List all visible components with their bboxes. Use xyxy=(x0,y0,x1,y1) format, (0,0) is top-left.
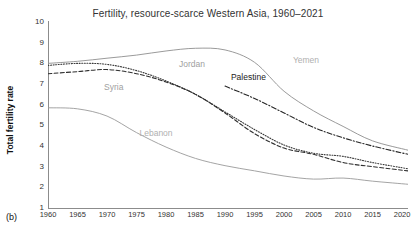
y-axis-ticks: 10987654321 xyxy=(22,21,44,208)
y-axis-title-text: Total fertility rate xyxy=(5,85,15,153)
series-label-syria: Syria xyxy=(104,82,123,92)
y-tick-label: 8 xyxy=(26,58,44,67)
series-label-yemen: Yemen xyxy=(293,55,319,65)
x-tick-label: 1995 xyxy=(246,210,263,219)
y-tick-label: 5 xyxy=(26,120,44,129)
y-tick-label: 2 xyxy=(26,182,44,191)
series-label-palestine: Palestine xyxy=(231,72,266,82)
series-label-jordan: Jordan xyxy=(179,59,205,69)
series-lines xyxy=(48,21,408,207)
y-tick-label: 10 xyxy=(26,17,44,26)
x-axis-line xyxy=(48,208,408,209)
x-tick-label: 2015 xyxy=(364,210,381,219)
series-line-yemen xyxy=(48,48,408,150)
x-tick-label: 1975 xyxy=(128,210,145,219)
x-tick-label: 1960 xyxy=(40,210,57,219)
x-axis-ticks: 1960196519701975198019851990199520002005… xyxy=(48,210,408,226)
chart-figure: Fertility, resource-scarce Western Asia,… xyxy=(0,0,416,239)
x-tick-label: 2005 xyxy=(305,210,322,219)
series-line-palestine xyxy=(225,86,408,154)
y-tick-label: 3 xyxy=(26,161,44,170)
y-tick-label: 7 xyxy=(26,79,44,88)
series-line-syria xyxy=(48,70,408,171)
chart-title: Fertility, resource-scarce Western Asia,… xyxy=(0,8,416,19)
x-tick-label: 2000 xyxy=(276,210,293,219)
series-line-lebanon xyxy=(48,108,408,184)
series-line-jordan xyxy=(48,63,408,168)
series-label-lebanon: Lebanon xyxy=(139,128,172,138)
y-tick-label: 6 xyxy=(26,99,44,108)
x-tick-label: 1965 xyxy=(69,210,86,219)
x-tick-label: 1970 xyxy=(99,210,116,219)
y-tick-label: 4 xyxy=(26,141,44,150)
plot-area xyxy=(48,21,408,207)
x-tick-label: 2010 xyxy=(335,210,352,219)
y-axis-title: Total fertility rate xyxy=(2,0,18,239)
y-tick-label: 9 xyxy=(26,37,44,46)
panel-label: (b) xyxy=(6,212,17,222)
x-tick-label: 2020 xyxy=(394,210,411,219)
x-tick-label: 1990 xyxy=(217,210,234,219)
x-tick-label: 1985 xyxy=(187,210,204,219)
x-tick-label: 1980 xyxy=(158,210,175,219)
